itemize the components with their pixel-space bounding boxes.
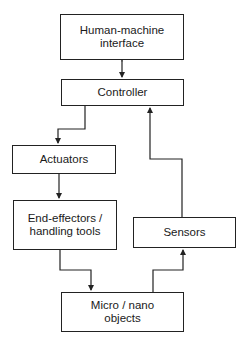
controller-actuators-arrow [58, 106, 85, 143]
sensors-label: Sensors [163, 226, 205, 239]
hmi-label-line1: Human-machine [80, 24, 164, 37]
micro-nano-objects-box: Micro / nano objects [61, 292, 184, 332]
end-effectors-label-line1: End-effectors / [28, 212, 103, 225]
end-effectors-box: End-effectors / handling tools [13, 200, 117, 250]
sensors-controller-arrow [150, 108, 182, 217]
endeffectors-objects-arrow [60, 250, 91, 290]
objects-label-line1: Micro / nano [91, 299, 154, 312]
actuators-box: Actuators [12, 145, 116, 174]
end-effectors-label-line2: handling tools [28, 225, 103, 238]
objects-sensors-arrow [153, 250, 183, 292]
hmi-label-line2: interface [80, 37, 164, 50]
controller-box: Controller [61, 79, 184, 106]
objects-label-line2: objects [91, 312, 154, 325]
controller-label: Controller [98, 86, 148, 99]
actuators-label: Actuators [40, 153, 89, 166]
sensors-box: Sensors [133, 217, 236, 248]
hmi-box: Human-machine interface [60, 14, 184, 60]
